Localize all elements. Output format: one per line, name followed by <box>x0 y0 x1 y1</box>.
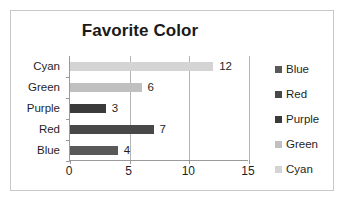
legend-item-green[interactable]: Green <box>275 138 318 151</box>
bar-green[interactable] <box>70 83 142 92</box>
value-tick-label-5: 5 <box>125 164 132 178</box>
bar-value-label-green: 6 <box>148 83 154 92</box>
legend-swatch-icon-blue <box>275 66 282 73</box>
plot-area: 126374 <box>69 56 248 161</box>
legend-label-green: Green <box>286 138 318 151</box>
chart-frame: Favorite Color CyanGreenPurpleRedBlue 12… <box>10 10 334 191</box>
legend-item-purple[interactable]: Purple <box>275 113 319 126</box>
category-label-green: Green <box>28 77 60 98</box>
legend-item-blue[interactable]: Blue <box>275 63 309 76</box>
value-tick-label-15: 15 <box>241 164 254 178</box>
legend-label-cyan: Cyan <box>286 163 313 176</box>
legend-label-red: Red <box>286 88 307 101</box>
bar-value-label-purple: 3 <box>112 104 118 113</box>
legend-label-purple: Purple <box>286 113 319 126</box>
legend-swatch-icon-red <box>275 91 282 98</box>
category-tick-purple <box>66 119 70 120</box>
bar-cyan[interactable] <box>70 62 213 71</box>
plot-wrapper: CyanGreenPurpleRedBlue 126374 051015 <box>11 56 269 192</box>
gridline-15 <box>249 56 250 160</box>
bar-purple[interactable] <box>70 104 106 113</box>
value-tick-label-0: 0 <box>66 164 73 178</box>
legend-label-blue: Blue <box>286 63 309 76</box>
bar-value-label-cyan: 12 <box>219 62 232 71</box>
bar-red[interactable] <box>70 125 154 134</box>
category-axis-labels: CyanGreenPurpleRedBlue <box>11 56 60 161</box>
chart-legend: BlueRedPurpleGreenCyan <box>275 63 335 188</box>
category-tick-green <box>66 98 70 99</box>
bar-value-label-blue: 4 <box>124 146 130 155</box>
chart-screenshot: Favorite Color CyanGreenPurpleRedBlue 12… <box>0 0 344 207</box>
category-label-red: Red <box>39 119 60 140</box>
category-tick-red <box>66 140 70 141</box>
category-label-purple: Purple <box>27 98 60 119</box>
category-tick-blue <box>66 161 70 162</box>
legend-swatch-icon-green <box>275 141 282 148</box>
category-label-cyan: Cyan <box>33 56 60 77</box>
category-tick-cyan <box>66 77 70 78</box>
chart-title: Favorite Color <box>11 21 269 41</box>
legend-swatch-icon-purple <box>275 116 282 123</box>
legend-swatch-icon-cyan <box>275 166 282 173</box>
value-axis-labels: 051015 <box>69 164 248 184</box>
category-label-blue: Blue <box>37 140 60 161</box>
gridline-10 <box>189 56 190 160</box>
legend-item-red[interactable]: Red <box>275 88 307 101</box>
legend-item-cyan[interactable]: Cyan <box>275 163 313 176</box>
value-tick-label-10: 10 <box>182 164 195 178</box>
bar-value-label-red: 7 <box>160 125 166 134</box>
bar-blue[interactable] <box>70 146 118 155</box>
